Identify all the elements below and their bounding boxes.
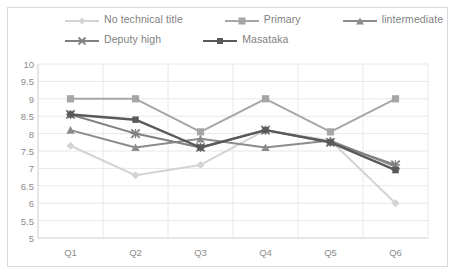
x-axis-labels: Q1Q2Q3Q4Q5Q6: [0, 0, 441, 260]
x-axis-tick-label: Q1: [64, 247, 77, 258]
x-axis-tick-label: Q6: [389, 247, 402, 258]
x-axis-tick-label: Q2: [129, 247, 142, 258]
x-axis-tick-label: Q4: [259, 247, 272, 258]
x-axis-tick-label: Q3: [194, 247, 207, 258]
plot-area: 109.598.587.576.565.55 Q1Q2Q3Q4Q5Q6: [0, 0, 441, 260]
x-axis-tick-label: Q5: [324, 247, 337, 258]
chart-container: No technical title Primary: [0, 0, 456, 275]
